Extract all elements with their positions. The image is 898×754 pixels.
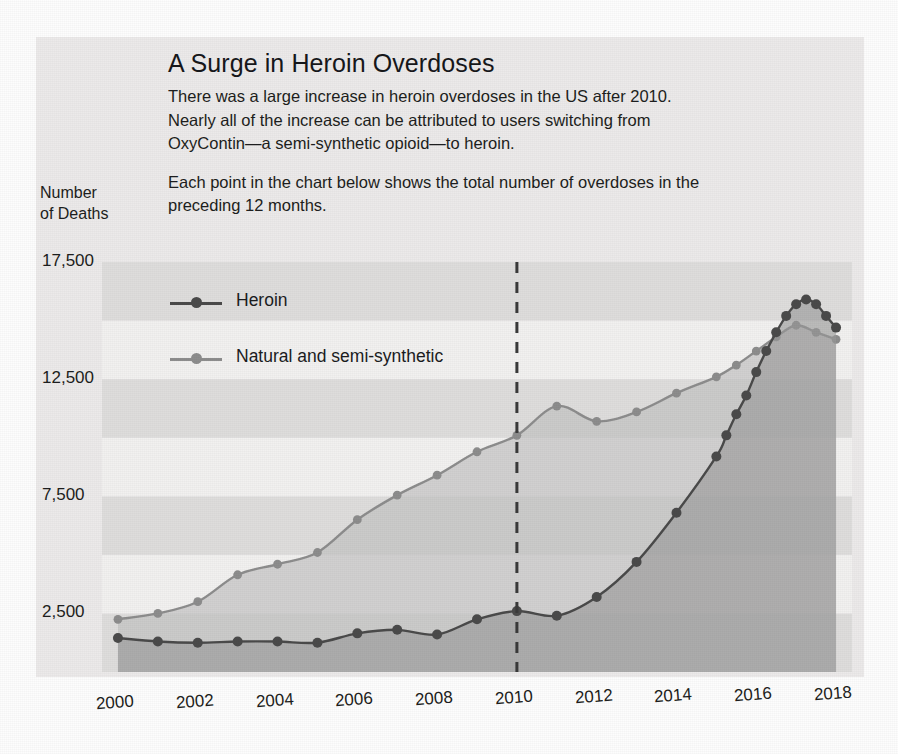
data-point-heroin-2[interactable] [193,638,203,648]
y-axis-title-line-1: Number [40,183,108,204]
data-point-natural-12[interactable] [592,417,601,426]
data-point-natural-9[interactable] [473,447,482,456]
data-point-natural-6[interactable] [353,515,362,524]
data-point-heroin-22[interactable] [781,311,791,321]
data-point-natural-1[interactable] [153,609,162,618]
x-tick-label-2008: 2008 [414,688,453,711]
data-point-natural-16[interactable] [732,361,741,370]
data-point-natural-8[interactable] [433,471,442,480]
legend-item-natural[interactable]: Natural and semi-synthetic [170,348,500,370]
x-tick-label-2018: 2018 [813,683,852,706]
data-point-heroin-0[interactable] [113,633,123,643]
data-point-heroin-18[interactable] [741,391,751,401]
x-tick-label-2014: 2014 [654,685,693,708]
y-tick-label-7500: 7,500 [42,485,85,505]
x-axis-tick-labels: 2000200220042006200820102012201420162018 [102,678,862,724]
data-point-natural-0[interactable] [114,615,123,624]
data-point-heroin-6[interactable] [352,628,362,638]
data-point-heroin-8[interactable] [432,630,442,640]
data-point-heroin-9[interactable] [472,614,482,624]
chart-legend: Heroin Natural and semi-synthetic [170,292,500,404]
data-point-heroin-23[interactable] [791,299,801,309]
data-point-heroin-4[interactable] [273,637,283,647]
x-tick-label-2006: 2006 [335,689,374,712]
data-point-heroin-12[interactable] [592,592,602,602]
description-paragraph-1: There was a large increase in heroin ove… [168,85,708,156]
data-point-heroin-3[interactable] [233,637,243,647]
y-axis-title: Number of Deaths [40,183,108,224]
data-point-heroin-5[interactable] [312,638,322,648]
header-block: A Surge in Heroin Overdoses There was a … [168,48,708,218]
chart-page: A Surge in Heroin Overdoses There was a … [0,0,898,754]
x-tick-label-2002: 2002 [175,691,214,714]
data-point-heroin-26[interactable] [821,311,831,321]
x-tick-label-2012: 2012 [574,686,613,709]
description-paragraph-2: Each point in the chart below shows the … [168,171,708,218]
page-title: A Surge in Heroin Overdoses [168,48,708,78]
legend-marker-natural [191,353,202,364]
data-point-heroin-11[interactable] [552,611,562,621]
legend-label-heroin: Heroin [236,290,288,311]
y-axis-title-line-2: of Deaths [40,204,108,225]
legend-marker-heroin [191,297,202,308]
data-point-natural-15[interactable] [712,372,721,381]
data-point-heroin-25[interactable] [811,299,821,309]
data-point-heroin-21[interactable] [771,327,781,337]
legend-item-heroin[interactable]: Heroin [170,292,500,314]
data-point-heroin-27[interactable] [831,323,841,333]
x-tick-label-2010: 2010 [494,687,533,710]
data-point-heroin-17[interactable] [731,409,741,419]
legend-label-natural: Natural and semi-synthetic [236,346,443,367]
data-point-heroin-14[interactable] [671,508,681,518]
data-point-heroin-24[interactable] [801,294,811,304]
data-point-heroin-7[interactable] [392,625,402,635]
data-point-natural-5[interactable] [313,548,322,557]
data-point-natural-17[interactable] [752,347,761,356]
x-tick-label-2004: 2004 [255,690,294,713]
data-point-heroin-13[interactable] [632,557,642,567]
x-tick-label-2000: 2000 [95,692,134,715]
data-point-heroin-19[interactable] [751,367,761,377]
x-tick-label-2016: 2016 [734,684,773,707]
data-point-natural-7[interactable] [393,491,402,500]
data-point-natural-3[interactable] [233,570,242,579]
data-point-heroin-1[interactable] [153,637,163,647]
y-tick-label-2500: 2,500 [42,602,85,622]
data-point-natural-2[interactable] [193,597,202,606]
data-point-heroin-16[interactable] [721,430,731,440]
data-point-heroin-20[interactable] [761,346,771,356]
data-point-natural-11[interactable] [552,402,561,411]
data-point-heroin-15[interactable] [711,451,721,461]
y-tick-label-12500: 12,500 [42,368,94,388]
data-point-natural-4[interactable] [273,560,282,569]
data-point-natural-13[interactable] [632,408,641,417]
y-tick-label-17500: 17,500 [42,251,94,271]
data-point-natural-14[interactable] [672,389,681,398]
